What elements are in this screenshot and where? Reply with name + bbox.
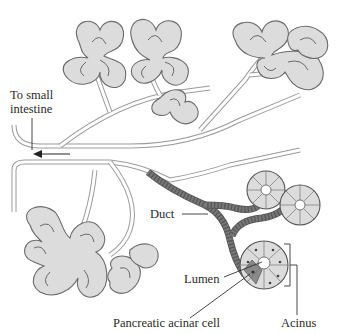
acinus-main [240, 241, 288, 289]
duct-label: Duct [150, 207, 174, 221]
acinus-label: Acinus [281, 316, 316, 330]
pancreas-diagram [0, 0, 339, 333]
acinus-upper [247, 171, 285, 209]
lower-left-lobule-cluster [25, 207, 159, 297]
label-line-2: intestine [10, 102, 53, 116]
flow-arrow-left-icon [33, 150, 70, 158]
acinus-right [280, 185, 320, 225]
upper-left-lobule-cluster [63, 19, 198, 123]
lumen-label: Lumen [184, 272, 219, 286]
acinus-leader [290, 265, 297, 315]
pancreatic-acinar-cell-label: Pancreatic acinar cell [113, 316, 220, 330]
label-line-1: To small [10, 88, 53, 102]
to-small-intestine-label: To small intestine [10, 88, 53, 116]
